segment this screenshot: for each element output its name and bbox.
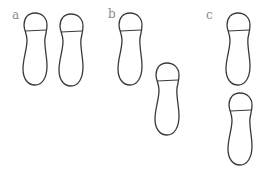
a-left-foot xyxy=(23,13,47,85)
panel-b xyxy=(118,13,179,135)
footprint-icon xyxy=(23,13,47,85)
c-first-foot xyxy=(226,13,250,85)
panel-a xyxy=(23,13,83,86)
c-second-foot xyxy=(228,93,252,165)
a-right-foot xyxy=(59,14,83,86)
footprint-icon xyxy=(155,63,179,135)
panel-c xyxy=(226,13,252,165)
footprint-icon xyxy=(226,13,250,85)
footprint-icon xyxy=(228,93,252,165)
footprint-icon xyxy=(118,13,142,85)
b-second-foot xyxy=(155,63,179,135)
footprint-icon xyxy=(59,14,83,86)
footprint-diagram xyxy=(0,0,267,174)
b-first-foot xyxy=(118,13,142,85)
